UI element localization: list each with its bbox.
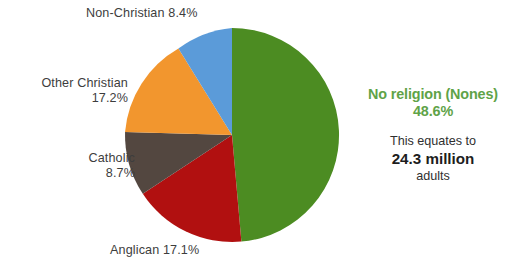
slice-label-anglican: Anglican 17.1% [110, 243, 199, 258]
slice-label-catholic-name: Catholic [88, 151, 135, 165]
callout-equates: This equates to 24.3 million adults [349, 134, 517, 185]
callout-equates-unit: adults [349, 169, 517, 185]
callout-headline: No religion (Nones) 48.6% [349, 86, 517, 121]
callout-equates-number: 24.3 million [349, 149, 517, 169]
callout-equates-line: This equates to [390, 134, 476, 148]
no-religion-callout: No religion (Nones) 48.6% This equates t… [349, 86, 517, 185]
callout-headline-pct: 48.6% [349, 103, 517, 120]
slice-label-non-christian: Non-Christian 8.4% [86, 6, 197, 21]
slice-label-other-christian-name: Other Christian [41, 76, 128, 90]
callout-headline-name: No religion (Nones) [368, 86, 498, 102]
slice-label-non-christian-text: Non-Christian 8.4% [86, 6, 197, 20]
slice-label-other-christian: Other Christian 17.2% [0, 76, 128, 106]
slice-label-anglican-text: Anglican 17.1% [110, 243, 199, 257]
pie-chart-figure: Non-Christian 8.4% Other Christian 17.2%… [0, 0, 519, 277]
slice-label-catholic: Catholic 8.7% [0, 151, 135, 181]
pie-slice-no-religion [232, 28, 339, 242]
slice-label-other-christian-pct: 17.2% [0, 91, 128, 106]
slice-label-catholic-pct: 8.7% [0, 166, 135, 181]
